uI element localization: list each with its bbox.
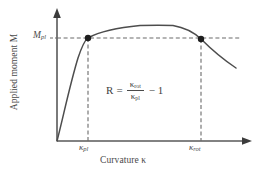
y-axis-title: Applied moment M xyxy=(10,12,24,132)
y-axis xyxy=(53,8,61,141)
x-axis-arrowhead xyxy=(242,137,252,145)
formula-numerator-subscript: rot xyxy=(134,83,141,89)
formula-equals-sign: = xyxy=(117,85,123,96)
formula-fraction: κrot κpl xyxy=(127,80,144,101)
x-tick-subscript-kpl: pl xyxy=(83,145,88,152)
x-tick-label-krot: κrot xyxy=(189,143,201,153)
x-tick-subscript-krot: rot xyxy=(193,145,200,152)
x-tick-label-kpl: κpl xyxy=(79,143,88,153)
y-tick-label-mpl: Mpl xyxy=(33,31,46,41)
y-tick-subscript: pl xyxy=(41,33,46,40)
formula-denominator-subscript: pl xyxy=(135,95,140,101)
x-axis-title: Curvature κ xyxy=(100,156,146,166)
y-axis-title-text: Applied moment M xyxy=(9,34,19,111)
rotation-capacity-formula: R = κrot κpl − 1 xyxy=(106,80,163,101)
formula-numerator: κrot xyxy=(129,80,142,90)
y-tick-symbol: M xyxy=(33,30,41,40)
moment-curvature-figure: Applied moment M Curvature κ Mpl κpl κro… xyxy=(0,0,266,172)
yield-point-marker xyxy=(85,35,91,41)
formula-variable: R xyxy=(106,85,114,96)
formula-tail: − 1 xyxy=(149,85,163,96)
rotation-capacity-point-marker xyxy=(198,36,204,42)
formula-denominator: κpl xyxy=(130,91,141,101)
y-axis-arrowhead xyxy=(53,8,61,18)
x-axis-title-text: Curvature κ xyxy=(100,155,146,165)
